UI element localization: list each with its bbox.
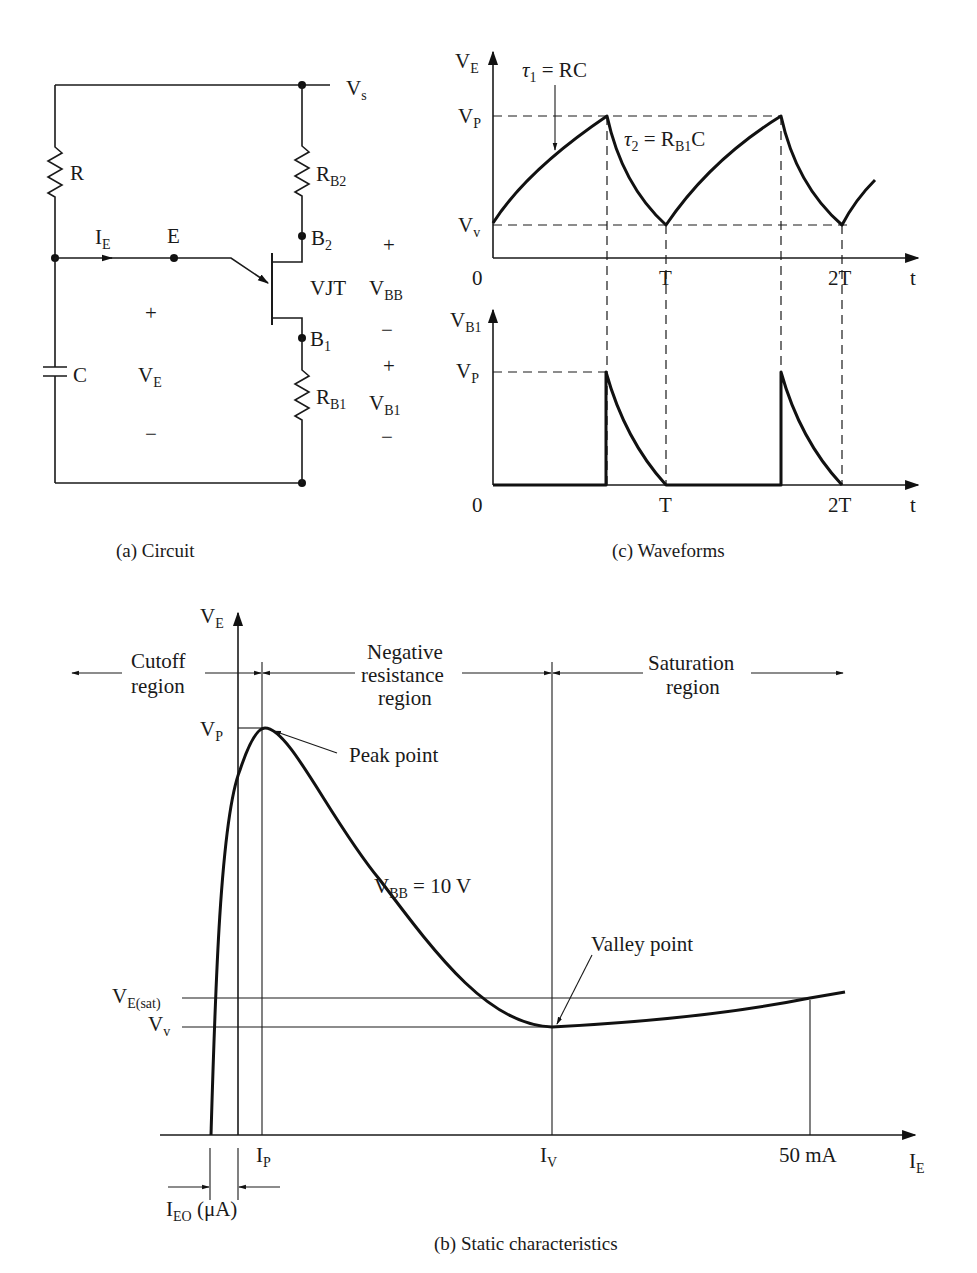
vbb-plus-sign: + [383, 233, 395, 257]
ujt-base-leads [272, 236, 302, 338]
valley-point-label: Valley point [591, 932, 693, 956]
waveforms-panel: VE τ1 = RC VP τ2 = RB1C Vv 0 T 2T t VB1 … [450, 49, 918, 562]
t-axis-label: t [910, 493, 916, 517]
c-label: C [73, 363, 87, 387]
vb1-axis-label: VB1 [450, 308, 482, 335]
ie-axis-label: IE [909, 1149, 925, 1176]
vb1-label: VB1 [369, 391, 401, 418]
vjt-label: VJT [310, 276, 346, 300]
sat-label-line1: Saturation [648, 651, 735, 675]
tau1-label: τ1 = RC [522, 58, 587, 85]
t-tick-label: T [659, 266, 672, 290]
vbb-label: VBB = 10 V [374, 874, 471, 901]
circuit-diagram: Vs R RB2 IE E B2 + VJT VBB − + B1 + C VE… [43, 76, 403, 562]
ieo-guides [210, 1148, 238, 1200]
ieo-label: IEO (μA) [166, 1197, 237, 1224]
t-axis-label: t [910, 266, 916, 290]
resistor-rb2-icon [295, 85, 309, 236]
ie-label: IE [95, 225, 111, 252]
vb1-waveform [493, 372, 842, 485]
ve-plus-sign: + [145, 301, 157, 325]
vv-label: Vv [148, 1012, 170, 1039]
ve-axis-label: VE [200, 604, 224, 631]
vv-label: Vv [458, 213, 480, 240]
peak-point-label: Peak point [349, 743, 438, 767]
emitter-node-dot [170, 254, 178, 262]
origin-label: 0 [472, 493, 483, 517]
e-label: E [167, 224, 180, 248]
2t-tick-label: 2T [828, 493, 852, 517]
ve-axis-label: VE [455, 49, 479, 76]
waveforms-caption: (c) Waveforms [612, 540, 725, 562]
vesat-label: VE(sat) [112, 984, 161, 1012]
vp-label: VP [200, 717, 223, 744]
vb1-minus-sign: − [381, 425, 393, 449]
origin-label: 0 [472, 266, 483, 290]
ve-minus-sign: − [145, 422, 157, 446]
vb1-plus-sign: + [383, 354, 395, 378]
ujt-characteristic-curve [211, 728, 845, 1135]
time-guides [607, 116, 842, 485]
neg-label-line1: Negative [367, 640, 443, 664]
50ma-tick-label: 50 mA [779, 1143, 838, 1167]
rb2-label: RB2 [316, 162, 346, 189]
rb1-label: RB1 [316, 385, 346, 412]
b2-label: B2 [311, 226, 332, 253]
cutoff-label-line1: Cutoff [131, 649, 185, 673]
vs-label: Vs [346, 76, 367, 103]
iv-tick-label: IV [540, 1143, 557, 1170]
ve-waveform [493, 116, 875, 225]
tau2-label: τ2 = RB1C [624, 127, 705, 154]
static-characteristics-panel: VE Cutoff region Negative resistance reg… [72, 604, 925, 1255]
capacitor-icon [43, 258, 67, 483]
vbb-label: VBB [369, 276, 403, 303]
resistor-rb1-icon [295, 338, 309, 483]
emitter-lead [110, 258, 268, 283]
2t-tick-label: 2T [828, 266, 852, 290]
resistor-r-icon [48, 85, 62, 258]
circuit-caption: (a) Circuit [116, 540, 195, 562]
neg-label-line2: resistance [361, 663, 444, 687]
ip-tick-label: IP [256, 1143, 271, 1170]
b1-label: B1 [310, 327, 331, 354]
valley-point-pointer-icon [557, 955, 592, 1024]
cutoff-label-line2: region [131, 674, 185, 698]
vp-label: VP [458, 104, 481, 131]
vb1-vp-label: VP [456, 359, 479, 386]
ve-label: VE [138, 363, 162, 390]
vbb-minus-sign: − [381, 318, 393, 342]
static-caption: (b) Static characteristics [434, 1233, 618, 1255]
neg-label-line3: region [378, 686, 432, 710]
t-tick-label: T [659, 493, 672, 517]
r-label: R [70, 161, 84, 185]
sat-label-line2: region [666, 675, 720, 699]
